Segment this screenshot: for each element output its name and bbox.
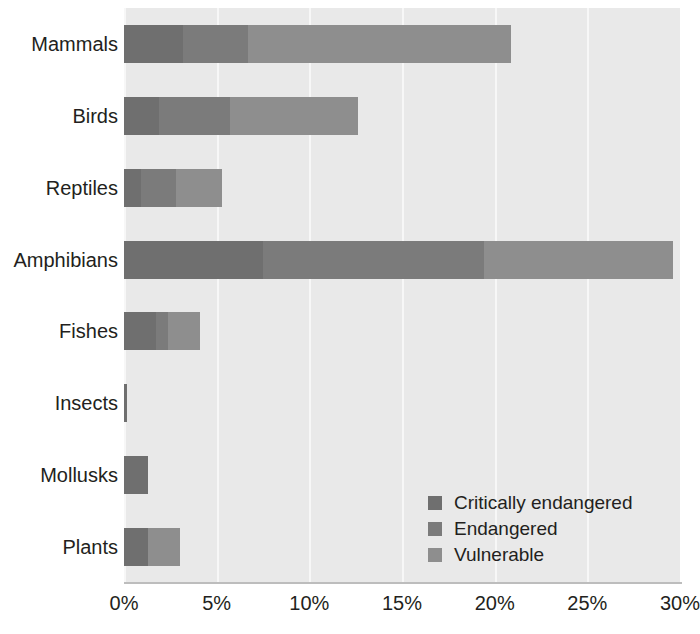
legend-item-vulnerable[interactable]: Vulnerable	[428, 542, 678, 568]
legend-item-endangered[interactable]: Endangered	[428, 516, 678, 542]
bar-birds	[124, 97, 358, 135]
y-axis-category-labels: MammalsBirdsReptilesAmphibiansFishesInse…	[0, 8, 118, 583]
bar-segment-mollusks-critically-endangered	[124, 456, 148, 494]
bar-segment-birds-endangered	[159, 97, 229, 135]
bar-segment-fishes-vulnerable	[168, 312, 200, 350]
bar-mammals	[124, 25, 511, 63]
bar-insects	[124, 384, 127, 422]
bar-segment-birds-critically-endangered	[124, 97, 159, 135]
bar-segment-birds-vulnerable	[230, 97, 358, 135]
legend-item-critically-endangered[interactable]: Critically endangered	[428, 490, 678, 516]
bar-segment-fishes-endangered	[156, 312, 169, 350]
y-axis-label-insects: Insects	[2, 384, 118, 422]
bar-fishes	[124, 312, 200, 350]
y-axis-label-mammals: Mammals	[2, 25, 118, 63]
bar-segment-mammals-endangered	[183, 25, 248, 63]
bar-segment-amphibians-critically-endangered	[124, 241, 263, 279]
bar-segment-reptiles-critically-endangered	[124, 169, 141, 207]
y-axis-label-birds: Birds	[2, 97, 118, 135]
chart-legend: Critically endangeredEndangeredVulnerabl…	[428, 490, 678, 568]
plot-area: Critically endangeredEndangeredVulnerabl…	[124, 8, 680, 583]
bar-segment-insects-critically-endangered	[124, 384, 127, 422]
y-axis-label-plants: Plants	[2, 528, 118, 566]
x-axis-tick-0: 0%	[110, 588, 139, 618]
x-axis-tick-labels: 0%5%10%15%20%25%30%	[0, 588, 692, 622]
bar-segment-reptiles-vulnerable	[176, 169, 222, 207]
legend-label: Critically endangered	[454, 492, 633, 514]
x-axis-tick-5: 5%	[202, 588, 231, 618]
legend-swatch-icon	[428, 496, 442, 510]
gridline-10	[309, 8, 311, 583]
bar-mollusks	[124, 456, 148, 494]
gridline-0	[124, 8, 126, 583]
bar-segment-mammals-critically-endangered	[124, 25, 183, 63]
x-axis-tick-15: 15%	[382, 588, 422, 618]
bar-segment-plants-vulnerable	[148, 528, 180, 566]
bar-plants	[124, 528, 180, 566]
bar-amphibians	[124, 241, 673, 279]
y-axis-label-amphibians: Amphibians	[2, 241, 118, 279]
bar-segment-amphibians-endangered	[263, 241, 484, 279]
legend-swatch-icon	[428, 548, 442, 562]
x-axis-tick-20: 20%	[475, 588, 515, 618]
x-axis-line	[124, 582, 682, 584]
legend-label: Vulnerable	[454, 544, 544, 566]
x-axis-tick-10: 10%	[289, 588, 329, 618]
y-axis-label-reptiles: Reptiles	[2, 169, 118, 207]
bar-reptiles	[124, 169, 222, 207]
bar-segment-amphibians-vulnerable	[484, 241, 673, 279]
bar-segment-reptiles-endangered	[141, 169, 176, 207]
gridline-5	[217, 8, 219, 583]
legend-label: Endangered	[454, 518, 558, 540]
bar-segment-plants-critically-endangered	[124, 528, 148, 566]
y-axis-label-mollusks: Mollusks	[2, 456, 118, 494]
y-axis-label-fishes: Fishes	[2, 312, 118, 350]
bar-segment-fishes-critically-endangered	[124, 312, 156, 350]
legend-swatch-icon	[428, 522, 442, 536]
gridline-15	[402, 8, 404, 583]
bar-segment-mammals-vulnerable	[248, 25, 511, 63]
x-axis-tick-25: 25%	[567, 588, 607, 618]
x-axis-tick-30: 30%	[660, 588, 700, 618]
